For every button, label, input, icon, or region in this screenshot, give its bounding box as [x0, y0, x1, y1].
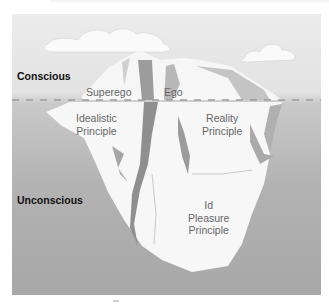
caption-mark [113, 300, 119, 302]
iceberg-illustration [12, 14, 321, 295]
principle-ego-line2: Principle [202, 125, 242, 138]
principle-id-line2: Principle [188, 224, 229, 237]
top-rule [50, 0, 329, 2]
part-label-superego: Superego [86, 86, 132, 99]
zone-label-unconscious: Unconscious [17, 194, 83, 207]
principle-superego-line2: Principle [76, 125, 117, 138]
principle-id-line1: Pleasure [188, 212, 229, 225]
zone-label-conscious: Conscious [17, 70, 71, 83]
part-label-id: Id [188, 199, 229, 212]
principle-superego-line1: Idealistic [76, 112, 117, 125]
part-label-ego: Ego [164, 86, 183, 99]
principle-superego: Idealistic Principle [76, 112, 117, 137]
cloud-small-icon [241, 44, 295, 62]
principle-id: Id Pleasure Principle [188, 199, 229, 237]
principle-ego-line1: Reality [202, 112, 242, 125]
cloud-icon [44, 29, 170, 52]
iceberg-diagram: Conscious Unconscious Superego Idealisti… [12, 14, 321, 295]
principle-ego: Reality Principle [202, 112, 242, 137]
